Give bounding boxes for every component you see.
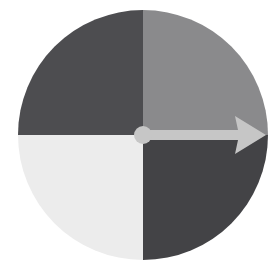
center-hub-icon [134, 126, 152, 144]
quadrant-dial-chart [0, 0, 270, 270]
figure-root [0, 0, 270, 270]
